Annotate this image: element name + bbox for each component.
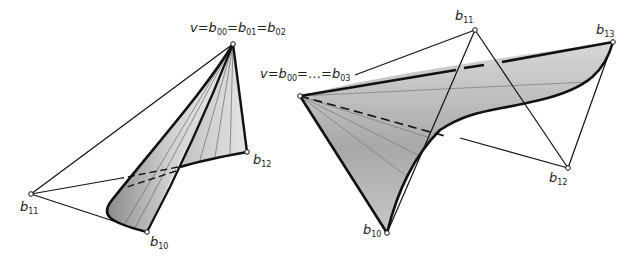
- label-left-apex: v=b00=b01=b02: [190, 20, 286, 37]
- label-left-b12: b12: [253, 152, 271, 169]
- sub-12: 12: [557, 178, 567, 187]
- sub-03: 03: [340, 74, 350, 83]
- sub-02: 02: [276, 28, 286, 37]
- right-figure: [298, 28, 616, 236]
- sub-12: 12: [261, 160, 271, 169]
- sub-11: 11: [28, 207, 38, 216]
- sub-10: 10: [158, 242, 168, 251]
- diagram-canvas: [0, 0, 644, 258]
- label-left-b10: b10: [150, 234, 168, 251]
- label-right-b11: b11: [455, 8, 473, 25]
- sub-13: 13: [604, 30, 614, 39]
- label-right-b12: b12: [549, 170, 567, 187]
- ellipsis: …: [308, 66, 321, 81]
- sub-00: 00: [217, 28, 227, 37]
- sub-10: 10: [371, 230, 381, 239]
- label-right-b10: b10: [363, 222, 381, 239]
- label-right-b13: b13: [596, 22, 614, 39]
- left-figure: [29, 42, 250, 235]
- label-v: v: [260, 66, 268, 81]
- label-v: v: [190, 20, 198, 35]
- label-right-apex: v=b00=…=b03: [260, 66, 350, 83]
- sub-11: 11: [463, 16, 473, 25]
- sub-00: 00: [287, 74, 297, 83]
- sub-01: 01: [246, 28, 256, 37]
- label-left-b11: b11: [20, 199, 38, 216]
